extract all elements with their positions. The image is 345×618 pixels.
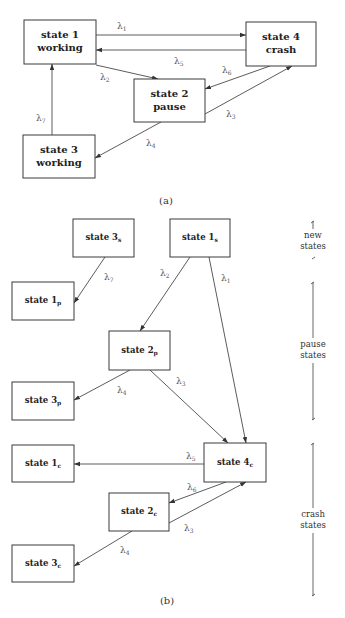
- group-label-new: new: [304, 230, 323, 240]
- rate-label-s1-s4: λ1: [117, 21, 127, 32]
- node-s3p: state 3p: [12, 382, 74, 420]
- rate-label-s1s-s4c: λ1: [221, 273, 231, 284]
- node-s4: state 4crash: [246, 22, 316, 66]
- group-bracket-new: newstates: [300, 221, 326, 259]
- caption-b: (b): [160, 595, 174, 606]
- rate-label-s3s-s1p: λ7: [104, 272, 114, 283]
- group-label-pause: states: [300, 350, 326, 360]
- rate-label-s1-s2: λ2: [100, 72, 110, 83]
- node-label: state 2c: [121, 506, 157, 517]
- node-s3c: state 3c: [12, 545, 74, 582]
- node-s1c: state 1c: [12, 445, 74, 482]
- node-label: working: [36, 42, 83, 53]
- node-label: state 4: [262, 31, 300, 42]
- node-label: state 4c: [217, 457, 253, 468]
- node-label: state 3c: [25, 558, 61, 569]
- diagram-a: λ1λ5λ2λ6λ3λ4λ7state 1workingstate 4crash…: [23, 20, 316, 178]
- node-label: state 3: [40, 144, 78, 155]
- group-label-crash: crash: [301, 509, 325, 519]
- node-s2c: state 2c: [109, 493, 169, 531]
- group-label-new: states: [300, 241, 326, 251]
- transition-s4-s2: [205, 66, 270, 89]
- node-s4c: state 4c: [204, 443, 266, 482]
- group-label-pause: pause: [300, 339, 325, 349]
- group-bracket-pause: pausestates: [300, 282, 326, 420]
- node-label: state 1c: [25, 458, 61, 469]
- transition-s4c-s2c: [169, 482, 226, 503]
- rate-label-s4-s1: λ5: [174, 56, 184, 67]
- rate-label-s2p-s4c: λ3: [176, 376, 186, 387]
- node-label: pause: [153, 101, 186, 112]
- rate-label-s1s-s2p: λ2: [160, 268, 170, 279]
- transition-s1s-s4c: [209, 257, 246, 443]
- state-transition-diagram: λ1λ5λ2λ6λ3λ4λ7state 1workingstate 4crash…: [0, 0, 345, 618]
- node-s2: state 2pause: [134, 79, 205, 122]
- node-label: state 1s: [182, 232, 218, 243]
- transition-s3s-s1p: [74, 257, 105, 303]
- rate-label-s2c-s4c: λ3: [184, 523, 194, 534]
- node-label: crash: [266, 44, 297, 55]
- caption-a: (a): [159, 195, 173, 206]
- transition-s2p-s4c: [150, 370, 228, 443]
- rate-label-s2-s4: λ3: [226, 109, 236, 120]
- node-label: working: [35, 157, 82, 168]
- node-s1p: state 1p: [12, 282, 74, 320]
- node-label: state 3s: [86, 232, 122, 243]
- node-s1s: state 1s: [170, 219, 230, 257]
- node-s1: state 1working: [24, 20, 96, 64]
- node-label: state 2: [150, 88, 188, 99]
- rate-label-s2p-s3p: λ4: [117, 385, 127, 396]
- rate-label-s4-s2: λ6: [222, 65, 232, 76]
- node-s3s: state 3s: [73, 219, 134, 257]
- rate-label-s2-s3: λ4: [146, 138, 156, 149]
- group-label-crash: states: [300, 520, 326, 530]
- transition-s2c-s4c: [169, 482, 246, 523]
- node-s3: state 3working: [23, 135, 95, 178]
- group-bracket-crash: crashstates: [300, 443, 326, 596]
- rate-label-s4c-s2c: λ6: [187, 482, 197, 493]
- rate-label-s3-s1: λ7: [36, 113, 46, 124]
- diagram-b: λ7λ2λ1λ4λ3λ5λ6λ3λ4state 3sstate 1sstate …: [12, 219, 326, 596]
- rate-label-s4c-s1c: λ5: [186, 451, 196, 462]
- node-s2p: state 2p: [109, 331, 170, 370]
- rate-label-s2c-s3c: λ4: [120, 545, 130, 556]
- node-label: state 1: [41, 29, 79, 40]
